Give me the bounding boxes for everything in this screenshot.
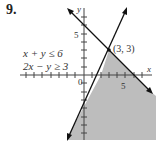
graph: (3, 3) x y 0 5 5 xyxy=(0,0,159,144)
x-axis-label: x xyxy=(146,64,151,74)
origin-label: 0 xyxy=(78,77,83,87)
arrowhead-icon xyxy=(122,7,127,15)
vertex-point xyxy=(107,48,111,52)
y-tick-label-5: 5 xyxy=(74,30,79,40)
x-tick-label-5: 5 xyxy=(121,81,126,91)
feasible-region xyxy=(67,50,156,140)
vertex-label: (3, 3) xyxy=(113,43,135,55)
y-axis-label: y xyxy=(76,4,81,14)
